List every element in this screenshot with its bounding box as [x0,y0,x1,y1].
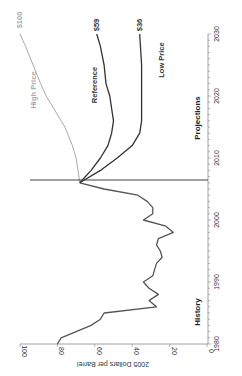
low-price-label: Low Price [157,42,166,77]
history-line [57,183,173,344]
year-ticks: 198019902000201020202030 [208,26,220,352]
value-tick-label: 0 [208,349,215,353]
value-tick-label: 20 [171,347,178,355]
projections-label: Projections [193,96,202,140]
value-tick-label: 60 [96,347,103,355]
reference-end-label: $59 [92,19,101,32]
year-tick-label: 2000 [213,212,220,228]
high-price-end-label: $100 [15,12,24,29]
high-price-label: High Price [29,71,38,108]
year-tick-label: 1990 [213,274,220,290]
year-tick-label: 2030 [213,26,220,42]
year-tick-label: 2010 [213,150,220,166]
low-price-end-label: $36 [135,19,144,32]
year-tick-label: 2020 [213,88,220,104]
reference-line [80,34,114,183]
value-tick-label: 40 [133,347,140,355]
low-price-line [80,34,142,183]
value-tick-label: 100 [21,345,28,357]
value-ticks: 020406080100 [20,344,215,357]
value-tick-label: 80 [58,347,65,355]
oil-price-chart: 198019902000201020202030 020406080100 20… [0,0,242,376]
y-axis-title: 2005 Dollars per Barrel [77,360,149,368]
reference-label: Reference [90,67,99,103]
history-label: History [193,298,202,326]
